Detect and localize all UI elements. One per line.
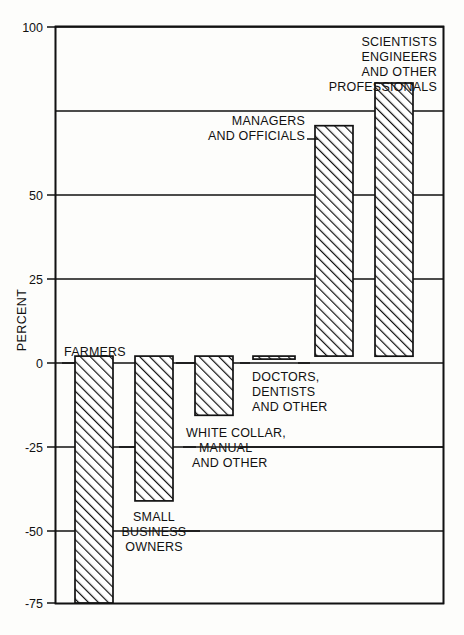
- bar-scientists-engineers-and-other-professionals: [375, 83, 413, 356]
- bar-label-small-business-owners-line-0: SMALL: [133, 510, 175, 524]
- bar-managers-and-officials: [315, 126, 353, 356]
- bar-label-scientists-line-1: ENGINEERS: [362, 50, 437, 64]
- bar-label-doctors-line-1: DENTISTS: [252, 385, 315, 399]
- bar-chart-svg: 100 50 25 0 -25 -50 -75 PERCENT FARMERS …: [0, 0, 464, 635]
- y-tick-label-25: 25: [29, 273, 43, 287]
- bar-small-business-owners: [135, 356, 173, 501]
- y-tick-label-neg75: -75: [25, 597, 43, 611]
- y-tick-label-0: 0: [36, 357, 43, 371]
- bar-label-white-collar-line-1: MANUAL: [199, 441, 252, 455]
- y-tick-label-50: 50: [29, 189, 43, 203]
- bar-label-small-business-owners-line-1: BUSINESS: [122, 525, 187, 539]
- bar-label-farmers-line-0: FARMERS: [64, 345, 126, 359]
- bar-label-scientists-line-2: AND OTHER: [362, 65, 437, 79]
- y-axis-title: PERCENT: [15, 289, 29, 352]
- bar-label-managers-line-1: AND OFFICIALS: [208, 129, 305, 143]
- bar-label-white-collar-line-0: WHITE COLLAR,: [186, 426, 286, 440]
- bar-label-doctors-line-0: DOCTORS,: [252, 370, 319, 384]
- bar-label-small-business-owners-line-2: OWNERS: [125, 540, 182, 554]
- bar-farmers: [75, 356, 113, 603]
- bar-white-collar-manual-and-other: [195, 356, 233, 415]
- bar-label-doctors-line-2: AND OTHER: [252, 400, 327, 414]
- y-tick-label-neg25: -25: [25, 441, 43, 455]
- bar-label-managers-line-0: MANAGERS: [232, 114, 305, 128]
- bar-label-white-collar-line-2: AND OTHER: [192, 456, 267, 470]
- y-tick-label-100: 100: [22, 21, 43, 35]
- y-tick-label-neg50: -50: [25, 525, 43, 539]
- chart-figure: 100 50 25 0 -25 -50 -75 PERCENT FARMERS …: [0, 0, 464, 635]
- bar-doctors-dentists-and-other: [253, 356, 295, 359]
- bar-label-scientists-line-3: PROFESSIONALS: [329, 80, 437, 94]
- bar-label-scientists-line-0: SCIENTISTS: [361, 35, 437, 49]
